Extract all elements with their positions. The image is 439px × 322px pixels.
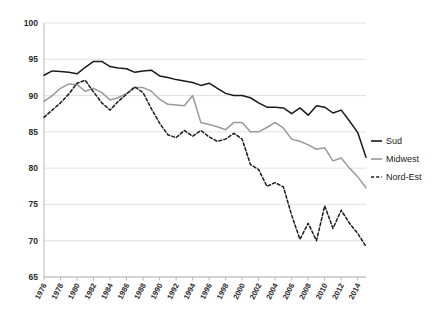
x-tick-label-1994: 1994 [182, 281, 198, 301]
x-tick-label-1988: 1988 [132, 282, 148, 301]
y-tick-label-70: 70 [29, 236, 39, 246]
x-tick-label-1990: 1990 [149, 282, 165, 301]
chart-legend: SudMidwestNord-Est [371, 136, 422, 182]
x-tick-label-1982: 1982 [83, 282, 99, 301]
x-tick-label-2008: 2008 [297, 282, 313, 301]
series-line-sud [44, 61, 366, 157]
x-tick-label-2002: 2002 [248, 282, 264, 301]
series-line-midwest [44, 84, 366, 188]
x-tick-label-1986: 1986 [116, 282, 132, 301]
y-tick-label-80: 80 [29, 163, 39, 173]
legend-label-sud: Sud [386, 136, 402, 146]
x-tick-label-1976: 1976 [33, 282, 49, 301]
y-tick-label-65: 65 [29, 272, 39, 282]
line-chart: 65707580859095100 1976197819801982198419… [0, 0, 439, 322]
data-series [44, 61, 366, 246]
y-tick-label-100: 100 [24, 18, 38, 28]
y-tick-label-75: 75 [29, 199, 39, 209]
gridlines [44, 23, 366, 277]
x-axis-tick-labels: 1976197819801982198419861988199019921994… [33, 281, 363, 301]
x-tick-label-2000: 2000 [231, 282, 247, 301]
x-tick-label-1984: 1984 [99, 281, 115, 301]
legend-label-midwest: Midwest [386, 154, 420, 164]
legend-label-nord-est: Nord-Est [386, 172, 422, 182]
y-tick-label-85: 85 [29, 127, 39, 137]
y-tick-label-95: 95 [29, 54, 39, 64]
x-tick-label-1998: 1998 [215, 282, 231, 301]
x-tick-label-1992: 1992 [165, 282, 181, 301]
x-tick-label-2010: 2010 [314, 282, 330, 301]
x-tick-label-1996: 1996 [198, 282, 214, 301]
x-tick-label-2004: 2004 [264, 281, 280, 301]
x-tick-marks [44, 277, 358, 281]
x-tick-label-2006: 2006 [281, 282, 297, 301]
chart-container: 65707580859095100 1976197819801982198419… [0, 0, 439, 322]
axes [44, 23, 366, 277]
x-tick-label-2014: 2014 [347, 281, 363, 301]
y-tick-label-90: 90 [29, 91, 39, 101]
x-tick-label-1978: 1978 [50, 282, 66, 301]
x-tick-label-1980: 1980 [66, 282, 82, 301]
y-axis-tick-labels: 65707580859095100 [24, 18, 38, 282]
x-tick-label-2012: 2012 [330, 282, 346, 301]
